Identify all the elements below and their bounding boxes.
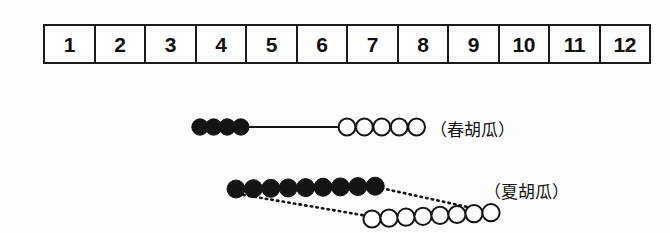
month-label: 5 — [266, 34, 277, 55]
month-scale-bar: 1 2 3 4 5 6 7 8 9 10 11 12 — [43, 24, 651, 64]
spring-open-marker-2 — [356, 119, 373, 136]
month-cell-12: 12 — [601, 26, 650, 62]
summer-connector-line-right — [376, 187, 486, 211]
summer-open-marker-6 — [448, 206, 465, 223]
summer-open-marker-4 — [414, 208, 431, 225]
month-cell-1: 1 — [45, 26, 96, 62]
spring-filled-marker-4 — [233, 119, 249, 135]
month-label: 7 — [367, 34, 378, 55]
month-label: 6 — [316, 34, 327, 55]
summer-open-marker-5 — [431, 207, 448, 224]
month-cell-10: 10 — [500, 26, 551, 62]
month-label: 12 — [614, 34, 636, 55]
month-label: 9 — [468, 34, 479, 55]
month-cell-8: 8 — [399, 26, 450, 62]
summer-filled-marker-7 — [331, 178, 349, 196]
spring-open-marker-4 — [391, 119, 408, 136]
month-label: 4 — [215, 34, 226, 55]
month-label: 11 — [564, 34, 585, 55]
month-cell-7: 7 — [348, 26, 399, 62]
month-cell-4: 4 — [197, 26, 248, 62]
summer-filled-marker-8 — [349, 178, 367, 196]
month-label: 10 — [513, 34, 535, 55]
month-cell-5: 5 — [247, 26, 298, 62]
spring-filled-markers — [192, 119, 249, 135]
spring-row-group — [192, 119, 425, 136]
summer-open-marker-8 — [482, 204, 499, 221]
summer-connector-line-left — [232, 193, 368, 216]
summer-open-marker-2 — [380, 210, 397, 227]
summer-filled-marker-6 — [314, 178, 332, 196]
summer-open-markers — [363, 204, 499, 228]
summer-open-marker-3 — [397, 209, 414, 226]
month-cell-11: 11 — [550, 26, 601, 62]
crop-label-spring: （春胡瓜） — [430, 116, 515, 141]
month-cell-2: 2 — [96, 26, 147, 62]
month-label: 2 — [114, 34, 125, 55]
month-cell-9: 9 — [449, 26, 500, 62]
summer-filled-marker-2 — [244, 180, 262, 198]
spring-filled-marker-3 — [219, 119, 235, 135]
summer-open-marker-1 — [363, 210, 380, 227]
summer-filled-marker-1 — [227, 180, 245, 198]
spring-open-markers — [339, 119, 425, 136]
summer-filled-marker-5 — [297, 179, 315, 197]
spring-open-marker-5 — [408, 119, 425, 136]
summer-filled-marker-4 — [279, 179, 297, 197]
spring-open-marker-3 — [373, 119, 390, 136]
summer-filled-marker-3 — [262, 179, 280, 197]
month-label: 3 — [165, 34, 176, 55]
spring-open-marker-1 — [339, 119, 356, 136]
month-cell-3: 3 — [146, 26, 197, 62]
month-label: 1 — [64, 34, 75, 55]
spring-filled-marker-1 — [192, 119, 208, 135]
summer-open-marker-7 — [465, 205, 482, 222]
summer-filled-markers — [227, 177, 384, 198]
month-cell-6: 6 — [298, 26, 349, 62]
month-label: 8 — [417, 34, 428, 55]
summer-filled-marker-9 — [366, 177, 384, 195]
crop-label-summer: （夏胡瓜） — [484, 178, 569, 203]
cultivation-calendar-figure: 1 2 3 4 5 6 7 8 9 10 11 12 （春胡瓜） （夏胡瓜） — [0, 0, 670, 233]
spring-filled-marker-2 — [205, 119, 221, 135]
summer-row-group — [227, 177, 500, 227]
